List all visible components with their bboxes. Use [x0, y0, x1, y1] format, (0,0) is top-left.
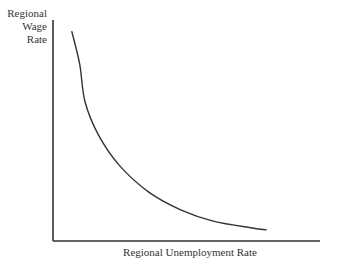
chart-plot	[0, 0, 337, 261]
x-axis-label: Regional Unemployment Rate	[0, 246, 337, 258]
wage-curve-line	[72, 31, 267, 230]
